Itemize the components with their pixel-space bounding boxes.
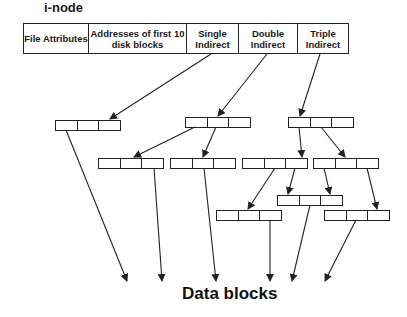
- indirect-block: [289, 118, 354, 128]
- pointer-arrow: [203, 127, 216, 157]
- pointer-arrow: [248, 168, 275, 209]
- indirect-block: [99, 159, 164, 169]
- indirect-block: [278, 196, 343, 206]
- pointer-arrow: [321, 127, 345, 157]
- pointer-arrow: [299, 127, 302, 157]
- pointer-arrow: [292, 205, 310, 281]
- indirect-block: [325, 211, 390, 221]
- indirect-block: [171, 159, 236, 169]
- indirect-block: [186, 118, 251, 128]
- pointer-arrow: [218, 54, 267, 116]
- pointer-arrow: [204, 168, 216, 281]
- indirect-blocks: [56, 118, 390, 221]
- pointer-arrow: [325, 220, 356, 281]
- indirect-block: [314, 159, 379, 169]
- pointer-arrow: [110, 54, 211, 119]
- pointer-arrow: [134, 127, 195, 157]
- pointer-arrow: [154, 168, 162, 281]
- pointer-arrow: [367, 168, 377, 209]
- pointer-diagram: [0, 0, 407, 317]
- pointer-arrow: [300, 54, 320, 116]
- pointer-arrow: [66, 130, 127, 281]
- data-blocks-label: Data blocks: [182, 284, 277, 304]
- indirect-block: [217, 211, 282, 221]
- indirect-block: [56, 121, 121, 131]
- pointer-arrow: [324, 168, 330, 194]
- pointer-arrow: [288, 168, 295, 194]
- indirect-block: [243, 159, 308, 169]
